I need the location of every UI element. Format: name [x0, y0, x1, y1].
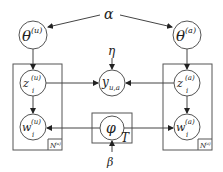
edge-alpha-theta-a: [120, 15, 172, 27]
node-z-u: z (u) i: [20, 70, 46, 96]
alpha-label: α: [104, 6, 114, 22]
svg-text:φ: φ: [106, 120, 116, 136]
svg-text:(u): (u): [55, 141, 61, 146]
eta-label: η: [108, 44, 116, 58]
svg-text:(u): (u): [31, 26, 42, 35]
svg-text:(a): (a): [205, 141, 211, 146]
node-theta-a: θ (a): [173, 21, 201, 49]
plate-topics-label: T: [121, 131, 130, 145]
svg-text:θ: θ: [22, 27, 31, 45]
svg-text:(a): (a): [185, 118, 195, 126]
node-w-u: w (u) i: [20, 114, 46, 140]
svg-text:i: i: [186, 131, 188, 139]
edge-alpha-theta-u: [48, 15, 100, 27]
svg-text:(a): (a): [185, 26, 196, 35]
svg-text:i: i: [186, 87, 188, 95]
node-y: y u,a: [99, 70, 125, 96]
graphical-model-diagram: α η β θ (u) θ (a) z (u) i w (u) i z (a) …: [0, 0, 223, 172]
svg-text:z: z: [176, 77, 183, 90]
svg-text:u,a: u,a: [109, 84, 120, 92]
svg-text:i: i: [32, 87, 34, 95]
svg-text:θ: θ: [176, 27, 185, 45]
svg-text:(u): (u): [31, 74, 41, 82]
node-w-a: w (a) i: [174, 114, 200, 140]
node-theta-u: θ (u): [19, 21, 47, 49]
svg-text:(u): (u): [31, 118, 41, 126]
svg-text:i: i: [32, 131, 34, 139]
node-z-a: z (a) i: [174, 70, 200, 96]
beta-label: β: [106, 156, 113, 169]
plate-left-label: N (u): [49, 141, 61, 150]
svg-text:(a): (a): [185, 74, 195, 82]
svg-text:z: z: [22, 77, 29, 90]
svg-text:y: y: [101, 75, 109, 89]
plate-right-label: N (a): [199, 141, 211, 150]
